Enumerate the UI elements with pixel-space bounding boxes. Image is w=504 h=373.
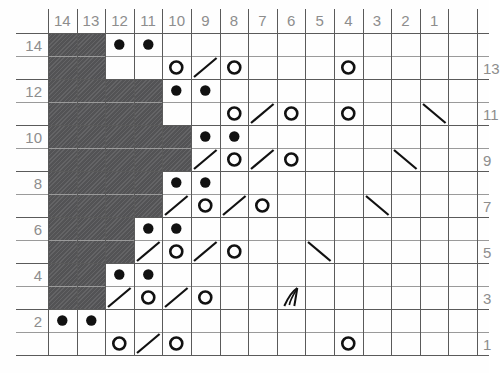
column-header-12: 12 — [105, 10, 134, 32]
column-header-10: 10 — [162, 10, 191, 32]
column-header-6: 6 — [277, 10, 306, 32]
row-label-4: 4 — [14, 264, 42, 287]
column-header-11: 11 — [134, 10, 163, 32]
row-label-2: 2 — [14, 310, 42, 333]
column-header-7: 7 — [248, 10, 277, 32]
row-label-3: 3 — [483, 287, 504, 310]
column-header-1: 1 — [420, 10, 449, 32]
column-header-3: 3 — [363, 10, 392, 32]
column-header-13: 13 — [77, 10, 106, 32]
row-label-5: 5 — [483, 241, 504, 264]
row-label-9: 9 — [483, 149, 504, 172]
column-header-14: 14 — [48, 10, 77, 32]
row-label-8: 8 — [14, 172, 42, 195]
column-header-9: 9 — [191, 10, 220, 32]
column-header-5: 5 — [305, 10, 334, 32]
column-header-8: 8 — [220, 10, 249, 32]
row-label-11: 11 — [483, 103, 504, 126]
row-label-10: 10 — [14, 126, 42, 149]
row-label-6: 6 — [14, 218, 42, 241]
row-label-12: 12 — [14, 80, 42, 103]
row-label-14: 14 — [14, 34, 42, 57]
row-label-7: 7 — [483, 195, 504, 218]
row-label-13: 13 — [483, 57, 504, 80]
row-label-1: 1 — [483, 333, 504, 356]
column-header-2: 2 — [391, 10, 420, 32]
column-header-4: 4 — [334, 10, 363, 32]
